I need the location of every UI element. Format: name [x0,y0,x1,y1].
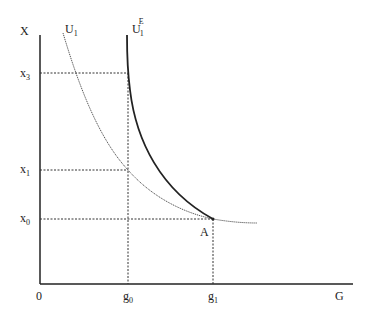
tick-x0: x0 [20,211,30,227]
x-axis-label: G [335,289,344,303]
point-a [212,218,215,221]
curve-u1 [63,33,257,223]
tick-x1: x1 [20,162,30,178]
origin-label: 0 [36,289,42,303]
label-u1e: U1E [132,17,144,38]
tick-g1: g1 [208,289,218,305]
tick-x3: x3 [20,66,30,82]
y-axis-label: X [20,24,29,38]
indifference-diagram: X G 0 x3 x1 x0 g0 g1 U1 U1E A [0,0,373,316]
label-point-a: A [200,225,209,239]
curve-u1e [127,35,213,219]
label-u1: U1 [65,22,78,38]
tick-g0: g0 [123,289,133,305]
